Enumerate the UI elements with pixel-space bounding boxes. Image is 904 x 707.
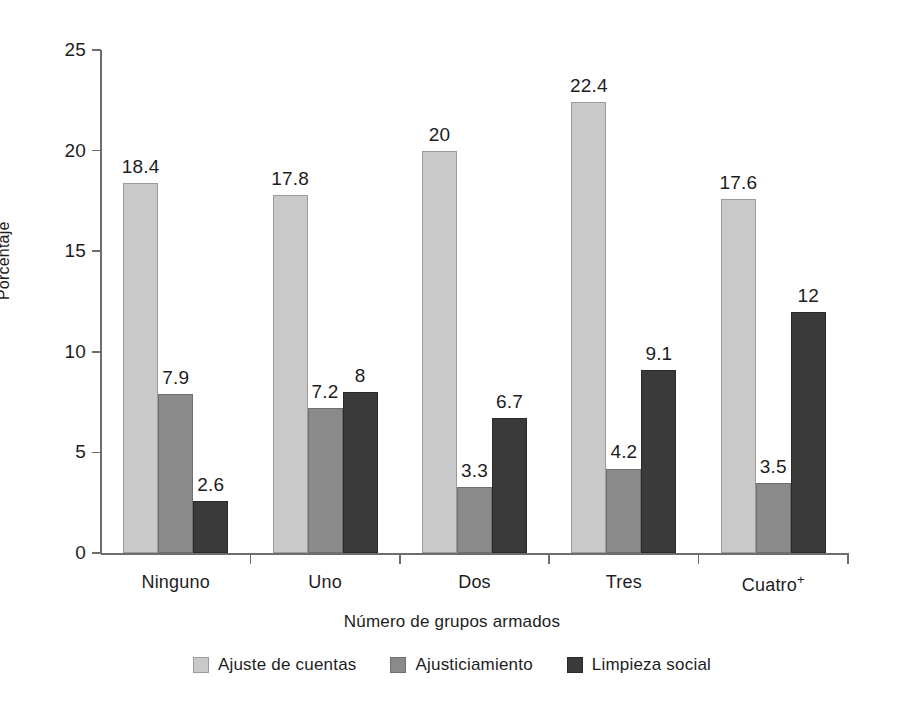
- legend-swatch-icon: [567, 657, 583, 673]
- bar: [492, 418, 527, 553]
- bar: [756, 483, 791, 553]
- bar: [721, 199, 756, 553]
- bar: [308, 408, 343, 553]
- bar: [273, 195, 308, 553]
- bar: [791, 312, 826, 553]
- bar-value-label: 12: [778, 285, 838, 307]
- bar-value-label: 4.2: [594, 441, 654, 463]
- y-axis-tick: [92, 452, 101, 454]
- x-axis-category-label: Dos: [395, 572, 555, 593]
- x-axis-category-label: Ninguno: [96, 572, 256, 593]
- bar: [606, 469, 641, 554]
- y-axis-tick-label: 15: [26, 240, 86, 262]
- x-axis-tick: [847, 554, 849, 564]
- legend-item: Ajuste de cuentas: [193, 655, 357, 675]
- y-axis-tick-label: 10: [26, 341, 86, 363]
- y-axis-tick-label: 0: [26, 542, 86, 564]
- bar: [571, 102, 606, 553]
- x-axis-category-label: Uno: [245, 572, 405, 593]
- legend-item: Limpieza social: [567, 655, 711, 675]
- bar-value-label: 7.9: [146, 367, 206, 389]
- bar-value-label: 3.3: [445, 460, 505, 482]
- bar: [193, 501, 228, 553]
- y-axis-tick: [92, 250, 101, 252]
- x-axis-tick: [250, 554, 252, 564]
- legend-label: Ajusticiamiento: [415, 655, 532, 675]
- legend-swatch-icon: [193, 657, 209, 673]
- bar-value-label: 3.5: [743, 456, 803, 478]
- y-axis-tick: [92, 150, 101, 152]
- x-axis-tick: [399, 554, 401, 564]
- bar-value-label: 8: [330, 365, 390, 387]
- bar-value-label: 2.6: [181, 474, 241, 496]
- bar-value-label: 22.4: [559, 75, 619, 97]
- y-axis-tick-label: 20: [26, 140, 86, 162]
- bar-chart-figure: 0510152025 Porcentaje 18.47.92.617.87.28…: [0, 0, 904, 707]
- y-axis-tick: [92, 351, 101, 353]
- legend-label: Limpieza social: [592, 655, 711, 675]
- legend-item: Ajusticiamiento: [390, 655, 532, 675]
- y-axis-tick: [92, 552, 101, 554]
- bar: [457, 487, 492, 553]
- bar-value-label: 18.4: [111, 156, 171, 178]
- x-axis-title: Número de grupos armados: [0, 612, 904, 632]
- x-axis-category-label: Tres: [544, 572, 704, 593]
- x-axis-line: [101, 553, 849, 555]
- bar: [422, 151, 457, 553]
- chart-legend: Ajuste de cuentasAjusticiamientoLimpieza…: [0, 655, 904, 675]
- category-label-superscript: +: [797, 572, 805, 587]
- bar-value-label: 17.6: [708, 172, 768, 194]
- y-axis-tick: [92, 49, 101, 51]
- x-axis-tick: [548, 554, 550, 564]
- legend-swatch-icon: [390, 657, 406, 673]
- bar-value-label: 6.7: [480, 391, 540, 413]
- y-axis-tick-label: 5: [26, 441, 86, 463]
- y-axis-tick-label: 25: [26, 39, 86, 61]
- y-axis-title: Porcentaje: [0, 222, 13, 301]
- legend-label: Ajuste de cuentas: [218, 655, 357, 675]
- x-axis-category-label: Cuatro+: [693, 572, 853, 596]
- bar-value-label: 9.1: [629, 343, 689, 365]
- bar: [343, 392, 378, 553]
- bar-value-label: 17.8: [260, 168, 320, 190]
- bar-value-label: 20: [410, 124, 470, 146]
- x-axis-tick: [698, 554, 700, 564]
